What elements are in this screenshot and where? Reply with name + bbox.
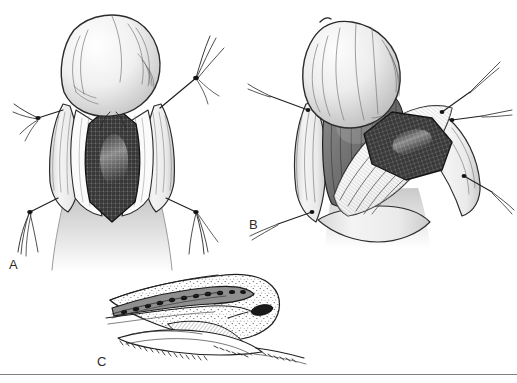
panel-label-a: A	[9, 258, 18, 271]
panel-label-b: B	[249, 218, 258, 231]
glans-a	[61, 15, 160, 116]
graft-highlight-a	[100, 134, 128, 186]
figure-container: A B C	[0, 0, 517, 383]
figure-bottom-rule	[0, 374, 517, 375]
panel-label-c: C	[97, 355, 107, 368]
surgical-illustration	[0, 0, 517, 383]
